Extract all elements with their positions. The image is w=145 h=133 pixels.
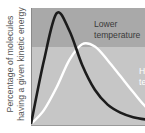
- y-axis-label-line2: having a given kinetic energy: [15, 7, 26, 121]
- higher-temperature-annotation-line1: H: [139, 66, 145, 77]
- y-axis-label-line1: Percentage of molecules: [5, 7, 16, 121]
- higher-temperature-annotation: H te: [139, 66, 145, 87]
- lower-temperature-annotation-line1: Lower: [94, 19, 140, 30]
- lower-temperature-annotation-line2: temperature: [94, 30, 140, 41]
- plot-area: Lower temperature H te: [31, 8, 145, 126]
- higher-temperature-annotation-line2: te: [139, 77, 145, 88]
- lower-temperature-annotation: Lower temperature: [94, 19, 140, 40]
- y-axis-label: Percentage of molecules having a given k…: [0, 0, 30, 133]
